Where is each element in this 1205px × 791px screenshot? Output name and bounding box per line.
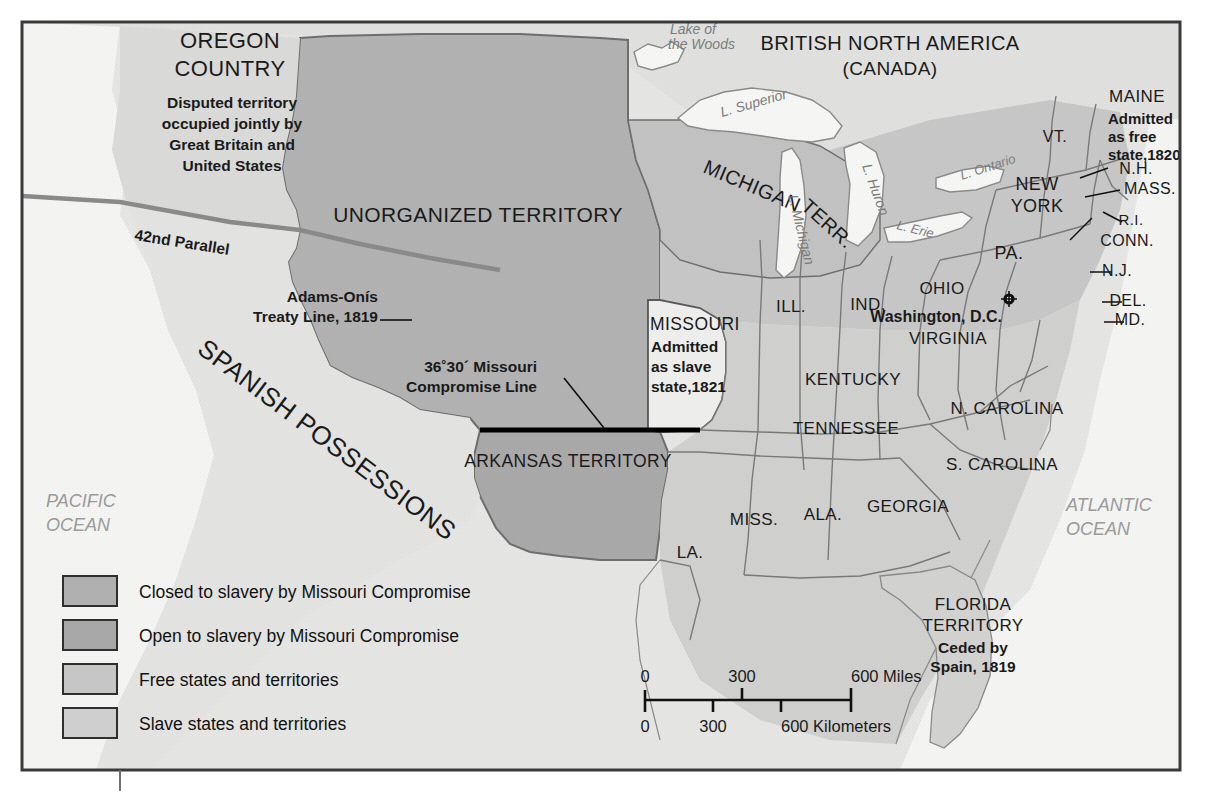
label-maine-note-2: as free [1108, 128, 1156, 145]
label-state-ala: ALA. [804, 505, 842, 524]
label-state-pa: PA. [995, 243, 1024, 263]
legend-label-3: Free states and territories [139, 670, 339, 690]
label-state-del: DEL. [1109, 292, 1146, 309]
label-state-ind: IND. [850, 295, 886, 314]
label-state-md: MD. [1115, 311, 1146, 328]
label-adams-onis-2: Treaty Line, 1819 [253, 308, 378, 325]
label-oregon-note-1: Disputed territory [167, 94, 297, 111]
label-state-mass: MASS. [1124, 180, 1176, 197]
label-compromise-line-1: 36˚30´ Missouri [424, 358, 537, 375]
label-oregon-country-l2: COUNTRY [174, 56, 285, 81]
label-washington-dc: Washington, D.C. [870, 308, 1002, 325]
label-state-n-carolina: N. CAROLINA [950, 399, 1063, 418]
label-adams-onis-1: Adams-Onís [287, 288, 378, 305]
label-state-ohio: OHIO [919, 279, 964, 298]
label-missouri-note-2: as slave [651, 358, 712, 375]
label-ocean-pacific-2: OCEAN [46, 515, 111, 535]
label-state-georgia: GEORGIA [867, 497, 949, 516]
label-maine: MAINE [1109, 87, 1165, 106]
label-state-s-carolina: S. CAROLINA [946, 455, 1058, 474]
label-state-vt: VT. [1043, 128, 1067, 145]
label-ocean-atlantic-1: ATLANTIC [1065, 495, 1153, 515]
label-state-new: NEW [1015, 174, 1058, 194]
scale-km-label-3: 600 Kilometers [781, 717, 891, 735]
historical-map-svg: OREGON COUNTRY Disputed territory occupi… [0, 0, 1205, 791]
label-british-north-america: BRITISH NORTH AMERICA [760, 32, 1019, 54]
scale-miles-label-1: 0 [640, 667, 649, 685]
legend-swatch-2 [63, 620, 117, 650]
label-state-n-h: N.H. [1119, 160, 1153, 177]
label-ocean-pacific-1: PACIFIC [46, 491, 117, 511]
label-unorganized-territory: UNORGANIZED TERRITORY [333, 203, 623, 226]
label-state-york: YORK [1011, 196, 1064, 216]
scale-km-label-2: 300 [699, 717, 727, 735]
label-state-n-j: N.J. [1102, 262, 1132, 279]
label-state-la: LA. [677, 543, 704, 562]
label-missouri-note-1: Admitted [651, 338, 718, 355]
label-florida-territory: TERRITORY [922, 616, 1023, 635]
label-state-r-i: R.I. [1119, 211, 1144, 228]
label-state-conn: CONN. [1100, 232, 1154, 249]
label-florida-note-1: Ceded by [938, 639, 1008, 656]
label-oregon-note-2: occupied jointly by [162, 115, 303, 132]
legend-swatch-3 [63, 664, 117, 694]
label-florida: FLORIDA [935, 595, 1012, 614]
label-oregon-note-3: Great Britain and [169, 136, 295, 153]
label-missouri-note-3: state,1821 [651, 378, 726, 395]
label-oregon-country-l1: OREGON [180, 28, 280, 53]
legend-label-4: Slave states and territories [139, 714, 346, 734]
label-oregon-note-4: United States [182, 157, 281, 174]
label-state-kentucky: KENTUCKY [805, 370, 901, 389]
label-florida-note-2: Spain, 1819 [930, 658, 1016, 675]
label-compromise-line-2: Compromise Line [406, 378, 537, 395]
label-arkansas-territory: ARKANSAS TERRITORY [464, 451, 672, 471]
scale-miles-label-3: 600 Miles [851, 667, 922, 685]
scale-miles-label-2: 300 [728, 667, 756, 685]
legend-swatch-1 [63, 576, 117, 606]
scale-km-label-1: 0 [640, 717, 649, 735]
label-missouri: MISSOURI [650, 314, 740, 334]
label-state-miss: MISS. [730, 510, 778, 529]
map-figure: OREGON COUNTRY Disputed territory occupi… [0, 0, 1205, 791]
label-state-virginia: VIRGINIA [909, 329, 987, 348]
label-lake-the-woods: the Woods [668, 36, 735, 52]
label-maine-note-1: Admitted [1108, 110, 1173, 127]
label-state-tennessee: TENNESSEE [793, 419, 900, 438]
label-canada: (CANADA) [842, 58, 937, 79]
label-state-ill: ILL. [776, 297, 806, 316]
label-ocean-atlantic-2: OCEAN [1066, 519, 1131, 539]
legend-swatch-4 [63, 708, 117, 738]
legend-label-2: Open to slavery by Missouri Compromise [139, 626, 459, 646]
legend-label-1: Closed to slavery by Missouri Compromise [139, 582, 471, 602]
